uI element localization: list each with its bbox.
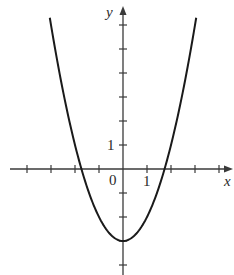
y-axis-arrow bbox=[120, 6, 127, 15]
y-axis-label: y bbox=[104, 4, 113, 20]
origin-label: 0 bbox=[109, 172, 117, 188]
y-tick-label-1: 1 bbox=[107, 137, 115, 153]
x-axis-label: x bbox=[223, 173, 231, 189]
parabola-chart: y x 0 1 1 bbox=[0, 0, 234, 275]
x-tick-label-1: 1 bbox=[143, 173, 151, 189]
x-axis-arrow bbox=[224, 166, 233, 173]
axes bbox=[10, 6, 233, 275]
